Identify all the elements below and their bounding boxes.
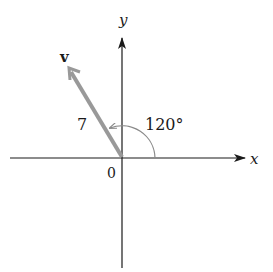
magnitude-label: 7 [77,115,87,134]
vector-v [69,68,122,157]
vector-diagram: y x 0 v 7 120° [0,0,273,272]
angle-label: 120° [145,115,184,134]
vector-name-label: v [59,48,70,66]
origin-label: 0 [107,165,116,181]
x-axis-label: x [250,150,259,168]
y-axis-label: y [118,11,128,29]
